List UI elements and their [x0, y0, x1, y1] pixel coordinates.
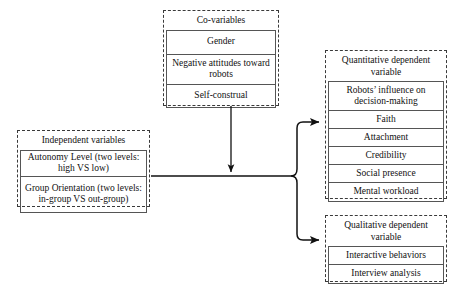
box-covariables-title: Co-variables [166, 13, 276, 30]
box-qualitative-title: Qualitative dependent variable [328, 218, 444, 246]
independent-item-group-orientation: Group Orientation (two levels: in-group … [21, 177, 146, 212]
diagram-canvas: Co-variables Gender Negative attitudes t… [0, 0, 461, 297]
box-independent-variables: Independent variables Autonomy Level (tw… [17, 130, 150, 207]
box-qualitative-items: Interactive behaviors Interview analysis [328, 246, 444, 284]
quantitative-item-attachment: Attachment [329, 129, 443, 147]
independent-item-autonomy-level: Autonomy Level (two levels: high VS low) [21, 151, 146, 177]
box-qualitative-dependent-variable: Qualitative dependent variable Interacti… [325, 215, 447, 282]
box-quantitative-title: Quantitative dependent variable [328, 53, 444, 81]
quantitative-item-social-presence: Social presence [329, 165, 443, 183]
quantitative-item-mental-workload: Mental workload [329, 183, 443, 201]
qualitative-item-interview-analysis: Interview analysis [329, 265, 443, 283]
qualitative-item-interactive-behaviors: Interactive behaviors [329, 247, 443, 265]
covariable-item-negative-attitudes: Negative attitudes toward robots [167, 55, 275, 85]
covariable-item-gender: Gender [167, 31, 275, 55]
box-covariables: Co-variables Gender Negative attitudes t… [163, 10, 279, 106]
box-covariables-items: Gender Negative attitudes toward robots … [166, 30, 276, 108]
box-quantitative-dependent-variable: Quantitative dependent variable Robots’ … [325, 50, 447, 199]
box-quantitative-items: Robots’ influence on decision-making Fai… [328, 81, 444, 202]
covariable-item-self-construal: Self-construal [167, 85, 275, 107]
arrow-to-quantitative [291, 122, 319, 176]
box-independent-variables-title: Independent variables [20, 133, 147, 150]
quantitative-item-robots-influence: Robots’ influence on decision-making [329, 82, 443, 111]
arrow-to-qualitative [291, 176, 319, 240]
box-independent-variables-items: Autonomy Level (two levels: high VS low)… [20, 150, 147, 213]
quantitative-item-faith: Faith [329, 111, 443, 129]
quantitative-item-credibility: Credibility [329, 147, 443, 165]
